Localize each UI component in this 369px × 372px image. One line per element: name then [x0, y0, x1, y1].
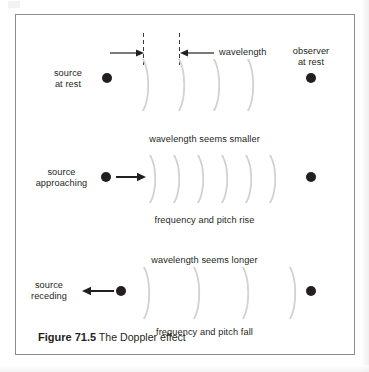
scan-artifact: [8, 1, 20, 8]
observer-dot-row1: [306, 73, 316, 83]
wavelength-label: wavelength: [219, 47, 266, 58]
page-edge-shadow-right: [361, 0, 369, 372]
frequency-pitch-rise-label: frequency and pitch rise: [102, 215, 307, 226]
source-receding-label-line1: source: [18, 280, 80, 291]
page-canvas: wavelength source at rest observer at re…: [0, 0, 369, 372]
wavelength-seems-smaller-label: wavelength seems smaller: [102, 134, 307, 145]
wavelength-arrow-right-icon: [180, 48, 214, 58]
source-motion-arrow-left-icon: [82, 286, 114, 296]
source-approaching-label-line1: source: [24, 167, 99, 178]
figure-caption-number: Figure 71.5: [38, 331, 96, 343]
observer-dot-row3: [306, 286, 316, 296]
source-dot-row3: [116, 286, 126, 296]
page-edge-shadow-bottom: [0, 365, 369, 372]
wavelength-tick-right: [179, 33, 180, 65]
source-dot-row1: [102, 73, 112, 83]
wavefronts-row1: [136, 59, 286, 111]
wavefronts-row2: [146, 155, 290, 203]
source-at-rest-label-line1: source: [38, 68, 98, 79]
wavefronts-row3: [138, 267, 308, 319]
figure-frame: wavelength source at rest observer at re…: [15, 14, 355, 355]
observer-at-rest-label-line2: at rest: [278, 57, 344, 68]
observer-at-rest-label-line1: observer: [278, 46, 344, 57]
source-at-rest-label-line2: at rest: [38, 79, 98, 90]
figure-caption-text: The Doppler effect: [99, 331, 186, 343]
source-dot-row2: [101, 172, 111, 182]
source-approaching-label-line2: approaching: [24, 178, 99, 189]
wavelength-tick-left: [143, 33, 144, 65]
figure-caption: Figure 71.5 The Doppler effect: [38, 331, 186, 343]
observer-dot-row2: [306, 172, 316, 182]
source-motion-arrow-right-icon: [116, 172, 146, 182]
wavelength-seems-longer-label: wavelength seems longer: [102, 255, 307, 266]
source-receding-label-line2: receding: [18, 291, 80, 302]
wavelength-arrow-left-icon: [110, 48, 144, 58]
